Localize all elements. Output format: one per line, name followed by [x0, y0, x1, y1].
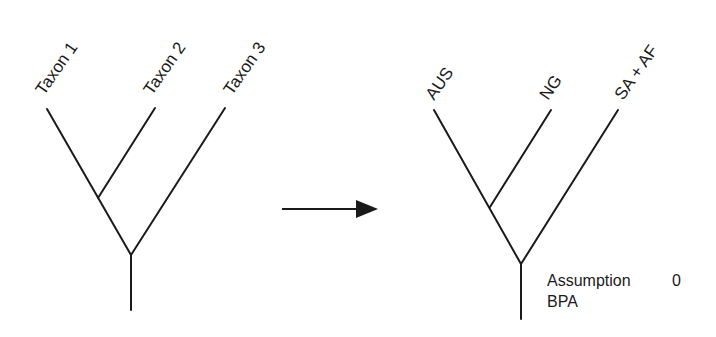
branch-taxon-2: [98, 108, 155, 198]
left-cladogram: [47, 108, 225, 310]
area-label: SA + AF: [611, 42, 662, 104]
right-arrow-icon: [282, 200, 378, 218]
assumption-value: 0: [672, 271, 681, 291]
area-label: AUS: [422, 64, 458, 104]
branch-taxon-3: [131, 108, 225, 255]
taxon-label: Taxon 3: [220, 39, 270, 99]
right-tree-labels: AUS NG SA + AF: [422, 42, 662, 104]
area-label: NG: [536, 72, 566, 104]
method-label: BPA: [547, 292, 578, 312]
branch-aus: [434, 110, 521, 264]
branch-taxon-1: [47, 109, 131, 255]
left-tree-labels: Taxon 1 Taxon 2 Taxon 3: [32, 39, 270, 99]
taxon-label: Taxon 1: [32, 39, 82, 99]
branch-ng: [490, 110, 551, 207]
taxon-label: Taxon 2: [140, 39, 190, 99]
assumption-label: Assumption: [547, 271, 631, 291]
